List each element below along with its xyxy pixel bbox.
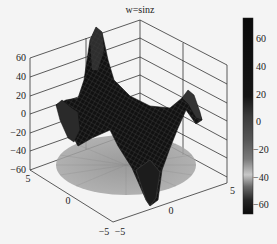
y-tick: 5 — [26, 173, 31, 184]
z-tick: −40 — [10, 145, 26, 156]
figure: w=sinz — [0, 0, 277, 244]
colorbar: 60 40 20 0 −20 −40 −60 — [243, 18, 269, 214]
z-tick: 0 — [21, 108, 26, 119]
z-tick: 20 — [16, 90, 26, 101]
z-axis-ticks: 60 40 20 0 −20 −40 −60 — [10, 52, 26, 175]
colorbar-tick: 20 — [256, 89, 266, 100]
colorbar-tick: −60 — [253, 199, 269, 210]
z-tick: −60 — [10, 164, 26, 175]
colorbar-tick: 60 — [256, 33, 266, 44]
x-tick: −5 — [115, 226, 126, 237]
x-tick: 5 — [230, 185, 235, 196]
z-tick: 40 — [16, 71, 26, 82]
z-tick: 60 — [16, 52, 26, 63]
colorbar-tick: 40 — [256, 61, 266, 72]
y-tick: 0 — [66, 195, 71, 206]
x-tick: 0 — [169, 205, 174, 216]
chart-title: w=sinz — [126, 4, 156, 15]
colorbar-gradient — [243, 18, 253, 214]
colorbar-tick: −40 — [253, 172, 269, 183]
colorbar-ticks: 60 40 20 0 −20 −40 −60 — [253, 33, 269, 210]
z-tick: −20 — [10, 127, 26, 138]
colorbar-tick: −20 — [253, 144, 269, 155]
colorbar-tick: 0 — [256, 116, 261, 127]
y-tick: −5 — [99, 226, 110, 237]
